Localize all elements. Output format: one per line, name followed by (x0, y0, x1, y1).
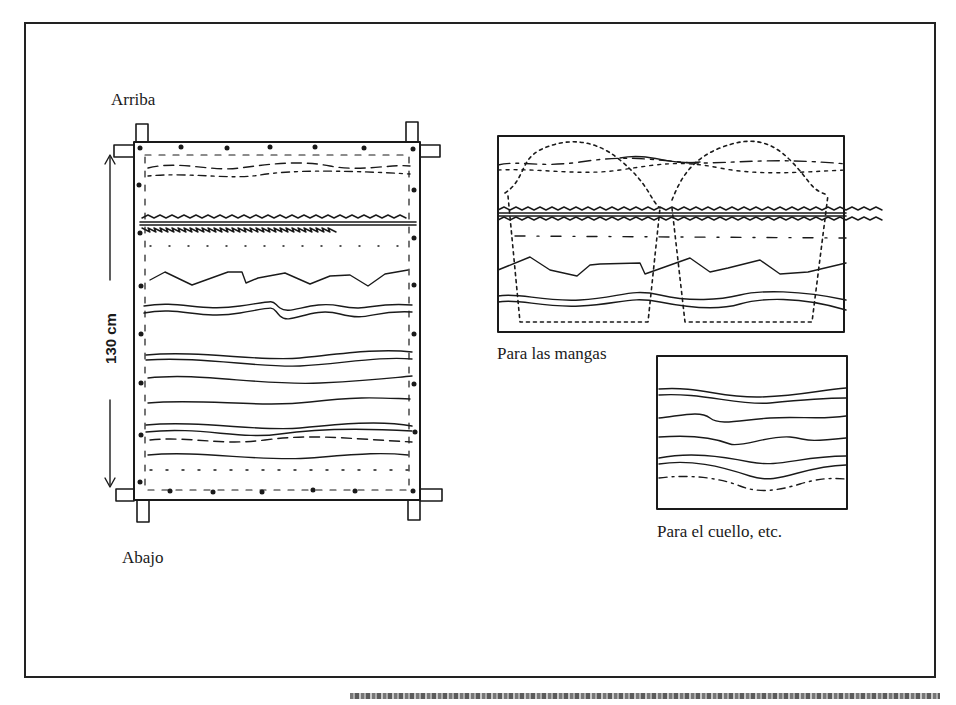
sleeve-fabric-panel (498, 136, 882, 332)
dimension-label: 130 cm (102, 307, 119, 371)
page-edge-artifact (350, 693, 940, 699)
label-top: Arriba (111, 90, 155, 110)
label-collar: Para el cuello, etc. (657, 522, 782, 542)
collar-fabric-panel (657, 356, 847, 509)
main-fabric-panel (105, 122, 442, 522)
pins (137, 145, 418, 495)
label-sleeves: Para las mangas (497, 344, 607, 364)
label-bottom: Abajo (122, 548, 164, 568)
